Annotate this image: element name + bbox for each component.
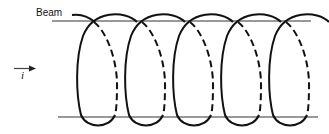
helix-loop-back-dashed [286,22,309,115]
helix-diagram-svg [0,0,329,134]
diagram-canvas: Beam i [0,0,329,134]
helix-loop-front [269,14,329,125]
direction-label-i: i [21,69,24,81]
helix-loop-back-dashed [190,22,213,115]
helix-coil [77,14,329,125]
helix-loop-back-dashed [94,22,117,115]
helix-loop-back-dashed [142,22,165,115]
direction-arrow-icon [14,66,36,72]
beam-label: Beam [36,7,62,19]
helix-loop-back-dashed [238,22,261,115]
